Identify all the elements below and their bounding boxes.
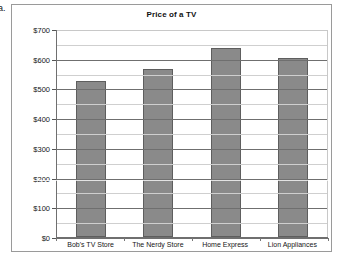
y-axis-tick-mark [52, 179, 56, 180]
gridline-minor [56, 75, 328, 76]
y-axis-tick-label: $400 [33, 115, 50, 124]
y-axis-tick-mark [52, 30, 56, 31]
y-axis-tick-label: $600 [33, 55, 50, 64]
y-axis-tick-label: $100 [33, 204, 50, 213]
gridline-minor [56, 134, 328, 135]
plot-area: $0$100$200$300$400$500$600$700 [56, 30, 328, 238]
gridline-major [56, 149, 328, 150]
bar [143, 69, 173, 237]
y-axis-tick-mark [52, 149, 56, 150]
y-axis-tick-label: $0 [42, 234, 50, 243]
plot-top-border [56, 30, 328, 31]
gridline-minor [56, 223, 328, 224]
gridline-minor [56, 104, 328, 105]
y-axis-tick-mark [52, 60, 56, 61]
gridline-major [56, 60, 328, 61]
gridline-major [56, 89, 328, 90]
bar [278, 58, 308, 237]
y-axis-line [56, 30, 57, 238]
gridline-minor [56, 193, 328, 194]
gridline-major [56, 208, 328, 209]
gridline-minor [56, 164, 328, 165]
x-axis-category-label: Bob's TV Store [57, 241, 124, 248]
y-axis-tick-label: $200 [33, 174, 50, 183]
x-axis-tick-mark [328, 238, 329, 241]
chart-title: Price of a TV [12, 10, 331, 19]
x-axis-category-label: Lion Appliances [259, 241, 326, 248]
chart-frame: Price of a TV $0$100$200$300$400$500$600… [11, 4, 332, 252]
x-axis-category-label: The Nerdy Store [124, 241, 191, 248]
gridline-minor [56, 45, 328, 46]
question-label: a. [0, 3, 6, 13]
x-axis-category-label: Home Express [192, 241, 259, 248]
x-axis-category-labels: Bob's TV StoreThe Nerdy StoreHome Expres… [57, 241, 326, 248]
y-axis-tick-label: $300 [33, 144, 50, 153]
y-axis-tick-mark [52, 208, 56, 209]
y-axis-tick-label: $500 [33, 85, 50, 94]
y-axis-tick-mark [52, 119, 56, 120]
y-axis-tick-label: $700 [33, 26, 50, 35]
gridline-major [56, 119, 328, 120]
gridline-major [56, 179, 328, 180]
y-axis-tick-mark [52, 89, 56, 90]
plot-right-border [327, 30, 328, 238]
